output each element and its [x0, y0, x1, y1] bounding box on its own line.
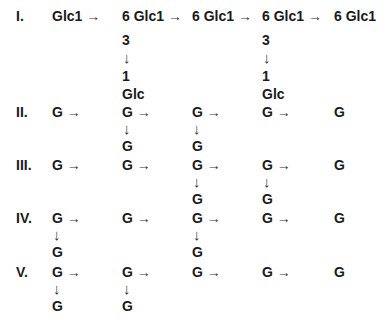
- residue-node: G: [334, 210, 345, 226]
- residue-node: 6 Glc1 →: [192, 8, 252, 24]
- branch-arrow-icon: ↓: [193, 174, 201, 190]
- residue-label: G: [52, 264, 63, 280]
- residue-node: G →: [262, 157, 291, 173]
- branch-residue: Glc: [262, 86, 285, 102]
- residue-label: 6 Glc1: [192, 8, 234, 24]
- linkage-arrow-icon: →: [133, 210, 151, 226]
- residue-node: G →: [52, 157, 81, 173]
- branch-arrow-icon: ↓: [53, 227, 61, 243]
- row-label: II.: [16, 104, 28, 120]
- residue-label: G: [122, 264, 133, 280]
- branch-arrow-icon: ↓: [53, 281, 61, 297]
- residue-node: 6 Glc1 →: [122, 8, 182, 24]
- residue-label: G: [334, 210, 345, 226]
- residue-node: G: [334, 264, 345, 280]
- residue-label: G: [262, 210, 273, 226]
- linkage-arrow-icon: →: [133, 104, 151, 120]
- residue-label: Glc1: [52, 8, 82, 24]
- branch-residue: Glc: [122, 86, 145, 102]
- linkage-arrow-icon: →: [63, 157, 81, 173]
- row-label: IV.: [16, 210, 32, 226]
- linkage-arrow-icon: →: [203, 104, 221, 120]
- branch-residue: G: [52, 298, 63, 314]
- branch-residue: 3: [122, 32, 130, 48]
- residue-node: G →: [122, 157, 151, 173]
- residue-label: G: [192, 157, 203, 173]
- residue-label: G: [192, 264, 203, 280]
- residue-node: G →: [192, 104, 221, 120]
- residue-label: G: [52, 157, 63, 173]
- residue-label: G: [262, 157, 273, 173]
- residue-node: G →: [262, 104, 291, 120]
- branch-residue: G: [262, 191, 273, 207]
- linkage-arrow-icon: →: [133, 157, 151, 173]
- residue-label: 6 Glc1: [334, 8, 376, 24]
- residue-node: G →: [122, 210, 151, 226]
- branch-arrow-icon: ↓: [123, 281, 131, 297]
- branch-arrow-icon: ↓: [193, 121, 201, 137]
- linkage-arrow-icon: →: [203, 264, 221, 280]
- row-label: III.: [16, 157, 32, 173]
- residue-node: G →: [192, 264, 221, 280]
- branch-residue: G: [52, 244, 63, 260]
- residue-node: 6 Glc1 →: [262, 8, 322, 24]
- linkage-arrow-icon: →: [164, 8, 182, 24]
- linkage-arrow-icon: →: [203, 210, 221, 226]
- residue-node: G →: [262, 264, 291, 280]
- residue-node: G →: [262, 210, 291, 226]
- branch-residue: 3: [262, 32, 270, 48]
- linkage-arrow-icon: →: [234, 8, 252, 24]
- residue-node: G →: [52, 104, 81, 120]
- residue-label: G: [122, 157, 133, 173]
- residue-label: G: [262, 104, 273, 120]
- branch-residue: G: [192, 138, 203, 154]
- linkage-arrow-icon: →: [133, 264, 151, 280]
- linkage-arrow-icon: →: [273, 157, 291, 173]
- residue-node: G →: [192, 157, 221, 173]
- branch-arrow-icon: ↓: [123, 50, 131, 66]
- branch-arrow-icon: ↓: [193, 227, 201, 243]
- linkage-arrow-icon: →: [273, 210, 291, 226]
- residue-label: G: [334, 157, 345, 173]
- row-label: I.: [16, 8, 24, 24]
- residue-node: G →: [52, 210, 81, 226]
- branch-residue: G: [122, 298, 133, 314]
- residue-label: G: [262, 264, 273, 280]
- residue-label: G: [334, 104, 345, 120]
- residue-label: G: [52, 210, 63, 226]
- linkage-arrow-icon: →: [63, 264, 81, 280]
- residue-label: 6 Glc1: [262, 8, 304, 24]
- linkage-arrow-icon: →: [273, 104, 291, 120]
- residue-node: G →: [122, 104, 151, 120]
- row-label: V.: [16, 264, 28, 280]
- linkage-arrow-icon: →: [273, 264, 291, 280]
- residue-label: G: [122, 210, 133, 226]
- residue-node: G →: [192, 210, 221, 226]
- residue-node: 6 Glc1: [334, 8, 376, 24]
- residue-node: Glc1 →: [52, 8, 100, 24]
- residue-label: G: [122, 104, 133, 120]
- residue-node: G: [334, 104, 345, 120]
- residue-label: G: [192, 104, 203, 120]
- residue-label: G: [334, 264, 345, 280]
- residue-node: G →: [122, 264, 151, 280]
- residue-label: G: [52, 104, 63, 120]
- branch-residue: G: [192, 191, 203, 207]
- branch-residue: 1: [262, 68, 270, 84]
- branch-residue: G: [122, 138, 133, 154]
- residue-node: G: [334, 157, 345, 173]
- residue-node: G →: [52, 264, 81, 280]
- linkage-arrow-icon: →: [203, 157, 221, 173]
- linkage-arrow-icon: →: [63, 210, 81, 226]
- linkage-arrow-icon: →: [82, 8, 100, 24]
- linkage-arrow-icon: →: [304, 8, 322, 24]
- branch-residue: G: [192, 244, 203, 260]
- branch-arrow-icon: ↓: [263, 50, 271, 66]
- branch-arrow-icon: ↓: [263, 174, 271, 190]
- residue-label: 6 Glc1: [122, 8, 164, 24]
- branch-residue: 1: [122, 68, 130, 84]
- linkage-arrow-icon: →: [63, 104, 81, 120]
- branch-arrow-icon: ↓: [123, 121, 131, 137]
- residue-label: G: [192, 210, 203, 226]
